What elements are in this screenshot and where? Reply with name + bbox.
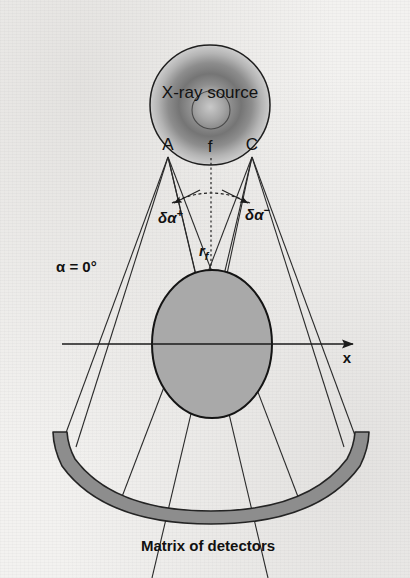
- delta-alpha-minus-base: δα: [245, 206, 264, 223]
- alpha-zero-label: α = 0°: [56, 258, 97, 275]
- focal-point-f-label: f: [208, 137, 213, 156]
- focal-point-c-label: C: [246, 135, 258, 154]
- ray-a-outer-left: [60, 157, 168, 449]
- ct-geometry-figure: X-ray source A f C: [0, 0, 410, 578]
- x-ray-source-label: X-ray source: [162, 83, 258, 102]
- focal-radius-label: rf: [199, 242, 210, 262]
- x-axis-label: x: [343, 349, 352, 366]
- focal-point-a-label: A: [162, 135, 174, 154]
- ray-a-mid-left: [76, 157, 168, 447]
- detector-matrix-label: Matrix of detectors: [141, 537, 275, 554]
- focal-radius-subscript: f: [205, 250, 210, 262]
- delta-alpha-plus-base: δα: [158, 209, 177, 226]
- delta-alpha-plus-superscript: +: [176, 207, 183, 219]
- delta-alpha-plus-label: δα+: [158, 207, 183, 226]
- ray-c-mid-right: [252, 157, 344, 447]
- delta-alpha-minus-superscript: −: [263, 204, 270, 216]
- ray-c-outer-right: [252, 157, 360, 449]
- detector-arc-band: [53, 432, 369, 524]
- delta-alpha-minus-label: δα−: [245, 204, 270, 223]
- figure-page: X-ray source A f C: [0, 0, 410, 578]
